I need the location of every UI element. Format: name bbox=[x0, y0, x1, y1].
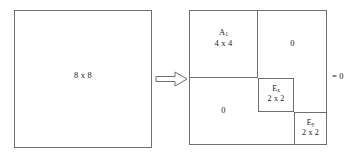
result-matrix-annotation: = 0 bbox=[332, 71, 358, 81]
block-zero-top-right-symbol: 0 bbox=[258, 38, 327, 48]
diagram-canvas: 8 x 8 A1 4 x 4 0 0 Ex 2 x 2 Ey 2 x 2 = 0 bbox=[0, 0, 360, 159]
block-ex-subscript: x bbox=[277, 87, 280, 93]
block-a1-size: 4 x 4 bbox=[189, 38, 258, 48]
block-ey-subscript: y bbox=[312, 121, 315, 127]
block-zero-top-right-label: 0 bbox=[258, 38, 327, 48]
block-ey-label: Ey 2 x 2 bbox=[294, 118, 327, 138]
source-matrix-label: 8 x 8 bbox=[14, 70, 152, 80]
right-block-arrow-icon bbox=[155, 68, 189, 90]
block-a1-subscript: 1 bbox=[225, 31, 228, 37]
source-matrix-size: 8 x 8 bbox=[14, 70, 152, 80]
block-a1-symbol: A1 bbox=[189, 27, 258, 38]
block-ex-label: Ex 2 x 2 bbox=[258, 84, 294, 104]
block-zero-bottom-left-label: 0 bbox=[189, 105, 258, 115]
block-ex-size: 2 x 2 bbox=[258, 94, 294, 104]
block-a1-label: A1 4 x 4 bbox=[189, 27, 258, 48]
block-ex-symbol: Ex bbox=[258, 84, 294, 94]
block-zero-bottom-left-symbol: 0 bbox=[189, 105, 258, 115]
block-ey-symbol: Ey bbox=[294, 118, 327, 128]
block-ey-size: 2 x 2 bbox=[294, 128, 327, 138]
